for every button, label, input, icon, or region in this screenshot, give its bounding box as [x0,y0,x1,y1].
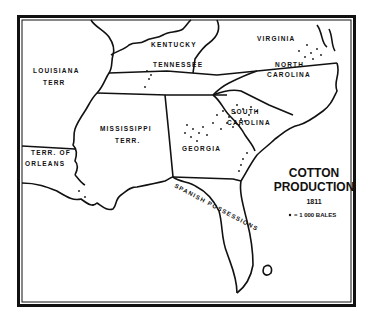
label-south: SOUTH [231,108,260,115]
mississippi-river [73,20,114,175]
label-mississippi-terr: TERR. [115,137,141,144]
label-kentucky: KENTUCKY [151,41,197,48]
label-tennessee: TENNESSEE [153,61,203,68]
florida-gulf-coast [173,177,237,293]
legend-scale-text: = 1 000 BALES [294,212,336,218]
chesapeake-bay [317,25,335,51]
legend-title-line2: PRODUCTION [274,180,355,194]
legend: COTTON PRODUCTION 1811 = 1 000 BALES [274,166,355,218]
label-terr-of: TERR. OF [31,149,71,156]
tennessee-south-border [97,93,227,95]
label-spanish-possessions: SPANISH POSSESSIONS [174,183,260,232]
label-louisiana-terr: TERR [43,79,66,86]
ohio-river [111,20,191,55]
legend-dot-icon [289,214,291,216]
label-georgia: GEORGIA [182,145,221,152]
label-south-carolina: CAROLINA [227,119,271,126]
map-frame: LOUISIANA TERR KENTUCKY VIRGINIA TENNESS… [17,15,356,307]
gulf-coast-west [22,177,173,210]
lake-okeechobee [263,265,271,275]
label-orleans: ORLEANS [25,160,65,167]
mississippi-delta [75,175,85,185]
map-border-outer [19,17,355,306]
legend-year: 1811 [306,198,321,205]
georgia-south-border [173,177,241,181]
label-mississippi: MISSISSIPPI [100,125,152,132]
label-north: NORTH [275,61,304,68]
region-labels: LOUISIANA TERR KENTUCKY VIRGINIA TENNESS… [25,35,311,232]
legend-title-line1: COTTON [289,166,339,180]
cotton-map-svg: LOUISIANA TERR KENTUCKY VIRGINIA TENNESS… [17,15,356,307]
label-north-carolina: CAROLINA [267,71,311,78]
label-virginia: VIRGINIA [257,35,296,42]
label-louisiana: LOUISIANA [33,67,80,74]
mississippi-georgia-border [165,95,173,177]
